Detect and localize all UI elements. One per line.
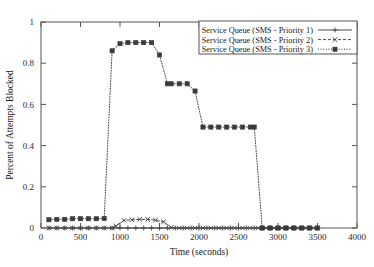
- data-point-marker: [240, 125, 244, 129]
- x-tick-label: 500: [74, 232, 88, 242]
- x-tick-label: 4000: [348, 232, 367, 242]
- chart-container: 00.20.40.60.81 0500100015002000250030003…: [0, 0, 374, 267]
- data-point-marker: [102, 216, 106, 220]
- data-point-marker: [315, 226, 319, 230]
- data-point-marker: [150, 41, 154, 45]
- x-axis-title: Time (seconds): [170, 247, 229, 258]
- legend-label-2: Service Queue (SMS - Priority 2): [202, 36, 314, 45]
- data-point-marker: [63, 217, 67, 221]
- data-point-marker: [217, 125, 221, 129]
- data-point-marker: [134, 41, 138, 45]
- data-point-marker: [86, 217, 90, 221]
- data-point-marker: [71, 217, 75, 221]
- legend-label-1: Service Queue (SMS - Priority 1): [202, 26, 314, 35]
- data-point-marker: [55, 217, 59, 221]
- data-point-marker: [110, 49, 114, 53]
- data-point-marker: [126, 41, 130, 45]
- chart-legend: Service Queue (SMS - Priority 1)Service …: [199, 21, 357, 54]
- x-tick-label: 0: [39, 232, 44, 242]
- data-point-marker: [185, 82, 189, 86]
- x-tick-label: 3500: [309, 232, 328, 242]
- data-point-marker: [209, 125, 213, 129]
- x-tick-label: 3000: [269, 232, 288, 242]
- data-point-marker: [300, 226, 304, 230]
- y-tick-label: 0.2: [23, 182, 34, 192]
- data-point-marker: [142, 41, 146, 45]
- data-point-marker: [248, 125, 252, 129]
- y-tick-label: 0: [30, 223, 35, 233]
- x-tick-label: 2000: [190, 232, 209, 242]
- data-point-marker: [193, 89, 197, 93]
- data-point-marker: [284, 226, 288, 230]
- x-tick-label: 2500: [230, 232, 249, 242]
- data-point-marker: [177, 82, 181, 86]
- data-point-marker: [276, 226, 280, 230]
- data-point-marker: [232, 125, 236, 129]
- data-point-marker: [169, 82, 173, 86]
- data-point-marker: [157, 53, 161, 57]
- x-tick-label: 1000: [111, 232, 130, 242]
- data-point-marker: [333, 47, 337, 51]
- data-point-marker: [260, 226, 264, 230]
- data-point-marker: [268, 226, 272, 230]
- data-point-marker: [94, 217, 98, 221]
- y-tick-label: 0.6: [23, 100, 35, 110]
- y-axis-title: Percent of Attempts Blocked: [5, 70, 15, 180]
- legend-label-3: Service Queue (SMS - Priority 3): [202, 45, 314, 54]
- data-point-marker: [252, 125, 256, 129]
- data-point-marker: [47, 218, 51, 222]
- data-point-marker: [201, 125, 205, 129]
- data-point-marker: [292, 226, 296, 230]
- y-tick-label: 0.8: [23, 58, 35, 68]
- data-point-marker: [165, 82, 169, 86]
- data-point-marker: [308, 226, 312, 230]
- line-chart: 00.20.40.60.81 0500100015002000250030003…: [0, 0, 374, 267]
- y-tick-label: 1: [30, 17, 35, 27]
- data-point-marker: [225, 125, 229, 129]
- y-tick-label: 0.4: [23, 141, 35, 151]
- data-point-marker: [78, 217, 82, 221]
- x-tick-label: 1500: [151, 232, 170, 242]
- data-point-marker: [118, 42, 122, 46]
